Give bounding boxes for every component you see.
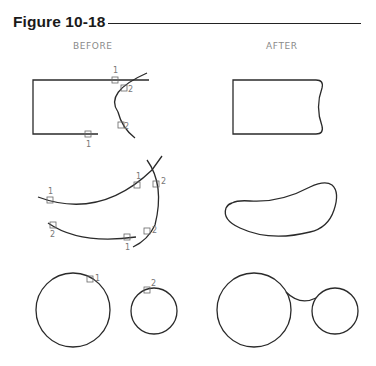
upper-arc — [38, 156, 162, 204]
pick-label: 2 — [124, 122, 129, 131]
pick-label: 1 — [95, 274, 100, 283]
large-circle — [217, 273, 291, 347]
pick-box — [124, 234, 130, 240]
pick-label: 1 — [136, 172, 141, 181]
row2-after-shape — [225, 183, 336, 236]
large-circle — [36, 273, 110, 347]
small-circle — [131, 288, 177, 334]
pick-label: 1 — [113, 66, 118, 75]
pick-label: 1 — [86, 140, 91, 149]
row1-before: 1 2 2 1 — [33, 66, 149, 149]
fillet-arc — [286, 292, 316, 301]
row3-before: 1 2 — [36, 273, 177, 347]
small-circle — [312, 288, 358, 334]
pick-label: 2 — [50, 230, 55, 239]
figure-drawing: 1 2 2 1 1 1 2 2 1 2 1 2 — [0, 0, 376, 366]
pick-label: 1 — [125, 243, 130, 252]
pick-box — [144, 228, 150, 234]
pick-label: 1 — [48, 187, 53, 196]
row1-after-shape — [233, 80, 322, 134]
pick-label: 2 — [128, 85, 133, 94]
pick-label: 2 — [152, 226, 157, 235]
lower-arc — [48, 223, 136, 239]
pick-label: 2 — [151, 279, 156, 288]
pick-label: 2 — [161, 177, 166, 186]
row3-after — [217, 273, 358, 347]
row2-before: 1 1 2 2 1 2 — [38, 156, 166, 252]
